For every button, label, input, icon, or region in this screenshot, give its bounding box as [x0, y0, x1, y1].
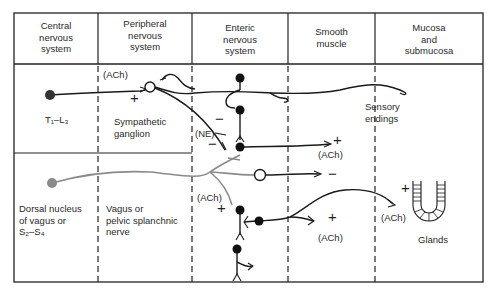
header-mucosa-submucosa: Mucosa and submucosa [375, 22, 483, 57]
header-text: nervous [14, 32, 98, 44]
label-text: Vagus or [106, 203, 178, 215]
header-text: Central [14, 20, 98, 32]
sign-plus-ganglion: + [130, 90, 139, 105]
label-t1-l3: T₁–L₃ [45, 114, 68, 126]
header-text: submucosa [375, 45, 483, 57]
label-sympathetic-ganglion: Sympathetic ganglion [114, 116, 166, 139]
sign-plus-muscle-1: + [333, 132, 342, 147]
header-text: system [192, 45, 288, 57]
label-text: ganglion [114, 128, 166, 140]
enteric-neuron-4 [236, 206, 245, 215]
label-text: pelvic splanchnic [106, 215, 178, 227]
label-text: nerve [106, 226, 178, 238]
label-vagus-nerve: Vagus or pelvic splanchnic nerve [106, 203, 178, 238]
parasympathetic-pathway [52, 155, 255, 205]
header-text: nervous [192, 34, 288, 46]
header-text: nervous [98, 30, 192, 42]
enteric-neuron-2 [236, 106, 245, 115]
header-enteric-nervous-system: Enteric nervous system [192, 22, 288, 57]
header-smooth-muscle: Smooth muscle [288, 26, 375, 49]
header-text: system [98, 41, 192, 53]
label-text: Sympathetic [114, 116, 166, 128]
label-ach-preganglionic: (ACh) [103, 69, 128, 81]
sympathetic-ganglion-cell [145, 82, 155, 92]
header-peripheral-nervous-system: Peripheral nervous system [98, 18, 192, 53]
label-text: Sensory [365, 101, 400, 113]
inhibitory-fiber [266, 171, 321, 177]
sign-minus-1: − [215, 111, 224, 126]
enteric-neuron-1 [236, 74, 245, 83]
label-dorsal-nucleus: Dorsal nucleus of vagus or S₂–S₄ [19, 203, 82, 238]
label-text: S₂–S₄ [19, 226, 82, 238]
header-central-nervous-system: Central nervous system [14, 20, 98, 55]
header-text: muscle [288, 38, 375, 50]
label-ach-glands: (ACh) [381, 212, 406, 224]
label-text: Dorsal nucleus [19, 203, 82, 215]
label-ach-muscle-1: (ACh) [318, 149, 343, 161]
enteric-neuron-3 [236, 143, 245, 152]
sign-plus-parasympathetic: + [217, 200, 226, 215]
sign-minus-muscle: − [328, 166, 337, 181]
header-text: Peripheral [98, 18, 192, 30]
sign-plus-muscle-2: + [328, 209, 337, 224]
header-text: and [375, 34, 483, 46]
label-text: endings [365, 113, 400, 125]
header-text: Smooth [288, 26, 375, 38]
parasympathetic-origin-cell [47, 178, 57, 188]
label-text: of vagus or [19, 215, 82, 227]
sign-plus-glands: + [401, 180, 410, 195]
enteric-neuron-6 [233, 245, 242, 254]
label-ach-muscle-2: (ACh) [318, 232, 343, 244]
label-glands: Glands [418, 234, 448, 246]
enteric-neuron-5 [255, 217, 264, 226]
inhibitory-enteric-neuron [255, 170, 266, 181]
gland-icon [413, 181, 445, 221]
label-sensory-endings: Sensory endings [365, 101, 400, 124]
cns-neuron-t1-l3 [45, 90, 55, 100]
header-text: system [14, 43, 98, 55]
sign-minus-2: − [208, 136, 217, 151]
header-text: Mucosa [375, 22, 483, 34]
lower-enteric-neurons [233, 190, 395, 281]
sympathetic-pathway [50, 74, 406, 150]
header-text: Enteric [192, 22, 288, 34]
